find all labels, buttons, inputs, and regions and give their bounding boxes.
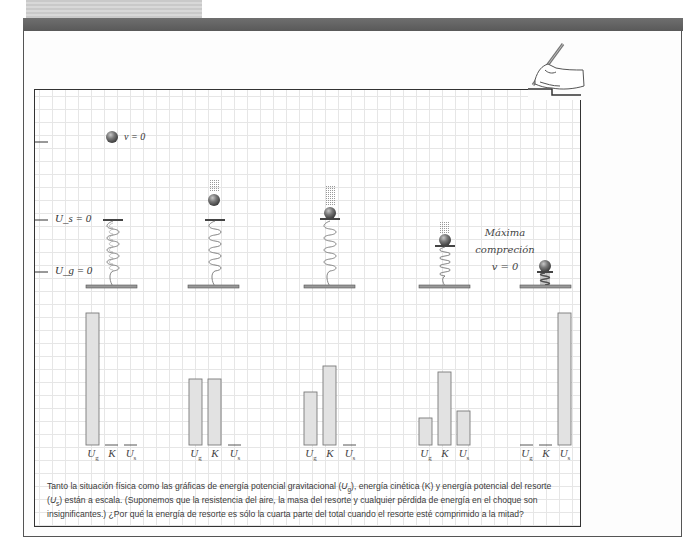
bar-label-ug: Ug — [84, 447, 102, 462]
motion-trail — [440, 221, 450, 233]
caption-line-1: Tanto la situación física como las gráfi… — [47, 481, 567, 495]
ball-icon — [439, 234, 451, 246]
energy-bar-chart — [86, 313, 571, 445]
motion-trail — [325, 186, 335, 206]
bar-scene5-us — [558, 313, 571, 445]
spring-icon — [304, 219, 355, 288]
panel-corner-edge — [528, 89, 581, 95]
ball-icon — [106, 131, 118, 143]
bar-label-ug: Ug — [302, 447, 320, 462]
annotation-line-2: compreción — [470, 241, 540, 258]
caption-line-2: (Us) están a escala. (Suponemos que la r… — [47, 495, 567, 509]
spring-icon — [419, 246, 470, 288]
motion-trail — [209, 180, 219, 192]
caption-line-3: insignificantes.) ¿Por qué la energía de… — [47, 509, 567, 520]
velocity-label-top: v = 0 — [124, 131, 145, 142]
spring-icon — [188, 220, 239, 288]
bar-label-us: Us — [226, 447, 244, 462]
bar-label-us: Us — [556, 447, 574, 462]
bar-label-k: K — [537, 447, 555, 459]
bar-scene2-ug — [189, 379, 202, 445]
pencil-hand-icon — [533, 44, 584, 89]
ball-icon — [539, 260, 551, 272]
bar-label-ug: Ug — [417, 447, 435, 462]
bar-label-k: K — [206, 447, 224, 459]
bar-label-k: K — [321, 447, 339, 459]
annotation-line-1: Máxima — [470, 224, 540, 241]
gravity-zero-label: U_g = 0 — [55, 264, 92, 276]
annotation-line-3: v = 0 — [470, 258, 540, 275]
bar-scene1-ug — [86, 313, 99, 445]
bar-label-ug: Ug — [187, 447, 205, 462]
bar-scene2-k — [208, 379, 221, 445]
bar-label-us: Us — [122, 447, 140, 462]
bar-label-us: Us — [341, 447, 359, 462]
figure-caption: Tanto la situación física como las gráfi… — [47, 481, 567, 521]
bar-label-k: K — [103, 447, 121, 459]
ball-icon — [208, 194, 220, 206]
bar-scene4-ug — [419, 418, 432, 445]
bar-scene3-ug — [304, 392, 317, 445]
bar-label-us: Us — [455, 447, 473, 462]
bar-scene4-us — [457, 411, 470, 445]
max-compression-annotation: Máxima compreción v = 0 — [470, 224, 540, 275]
spring-zero-label: U_s = 0 — [55, 212, 91, 224]
spring-icon — [86, 220, 137, 288]
bar-label-ug: Ug — [518, 447, 536, 462]
bar-label-k: K — [436, 447, 454, 459]
ball-icon — [324, 207, 336, 219]
bar-scene3-k — [323, 366, 336, 445]
bar-scene4-k — [438, 372, 451, 445]
